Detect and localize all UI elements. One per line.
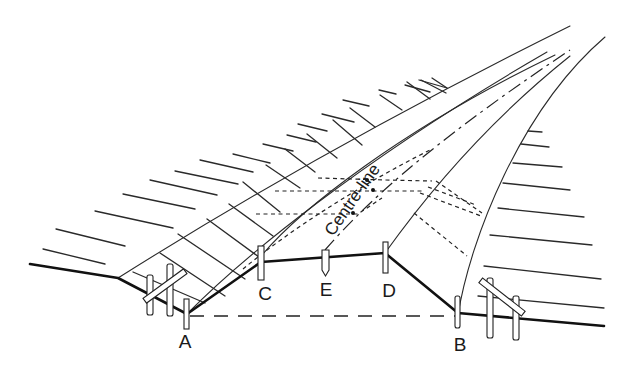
peg-e xyxy=(322,250,329,276)
centre-line-path xyxy=(325,50,570,250)
peg-c xyxy=(258,246,264,280)
peg-a xyxy=(184,299,189,329)
right-bank-edge xyxy=(458,37,605,315)
centre-line-label: Centre-line xyxy=(321,160,384,239)
label-d: D xyxy=(382,280,396,301)
peg-d xyxy=(383,242,388,273)
right-slope-rail xyxy=(479,278,525,340)
right-ground-hatching xyxy=(478,131,604,308)
left-verge-line xyxy=(262,55,555,255)
label-b: B xyxy=(454,334,467,355)
label-e: E xyxy=(320,279,333,300)
label-c: C xyxy=(258,283,272,304)
road-cutting-diagram: Centre-line A C E D B xyxy=(0,0,632,371)
left-bank-top-edge xyxy=(118,26,570,278)
left-slope-rail xyxy=(143,264,187,316)
label-a: A xyxy=(179,331,192,352)
left-ground-hatching xyxy=(43,80,447,264)
peg-b xyxy=(455,296,460,328)
